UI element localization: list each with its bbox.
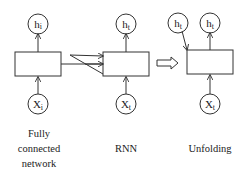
recurrent-loop-connector: [61, 55, 103, 74]
caption-line: network: [8, 156, 70, 171]
rnn-box: [103, 52, 149, 76]
loop-upper-arrow: [70, 55, 103, 56]
input-node-label: Xt: [121, 98, 132, 112]
panel-fully-connected: hi Xi: [15, 14, 61, 114]
hidden-layer-box: [15, 52, 61, 76]
caption-line: Fully: [8, 126, 70, 141]
prev-state-arrow: [182, 31, 187, 50]
unfold-transform-arrow: [157, 57, 178, 69]
input-node-label: Xi: [33, 98, 44, 112]
output-node-label: hi: [34, 18, 43, 31]
prev-state-node-label: ht: [174, 17, 183, 31]
caption-fully-connected: Fully connected network: [8, 126, 70, 171]
caption-line: RNN: [100, 141, 152, 156]
caption-unfolding: Unfolding: [180, 141, 240, 156]
output-node-label: ht: [206, 17, 215, 31]
caption-line: Unfolding: [180, 141, 240, 156]
input-node-label: Xt: [205, 98, 216, 112]
caption-line: connected: [8, 141, 70, 156]
output-node-label: ht: [122, 18, 131, 32]
unfolded-box: [187, 50, 233, 74]
caption-rnn: RNN: [100, 141, 152, 156]
panel-rnn: ht Xt: [103, 14, 149, 114]
